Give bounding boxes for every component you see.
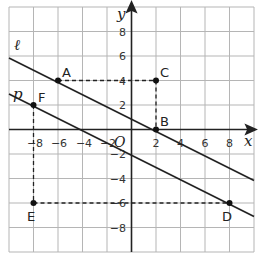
- x-tick: −8: [27, 137, 43, 150]
- x-tick: 2: [153, 137, 160, 150]
- point-D: [227, 200, 233, 206]
- y-tick: −8: [110, 222, 126, 235]
- point-B-label: B: [160, 114, 169, 129]
- x-tick: −6: [51, 137, 67, 150]
- x-tick: 6: [202, 137, 209, 150]
- point-C: [153, 78, 159, 84]
- line-p-label: p: [13, 85, 23, 103]
- axes: [9, 2, 256, 252]
- x-tick: −4: [76, 137, 92, 150]
- point-A-label: A: [62, 65, 71, 80]
- x-tick-labels: −8 −6 −4 −2 2 4 6 8: [27, 137, 233, 150]
- line-l-label: ℓ: [14, 36, 20, 54]
- y-tick: −2: [110, 148, 126, 161]
- x-axis-label: x: [244, 132, 253, 150]
- y-tick: 2: [119, 99, 126, 112]
- coordinate-graph: x y O −8 −6 −4 −2 2 4 6 8 8 6 4 2 −2 −4 …: [0, 0, 258, 266]
- y-tick: 6: [119, 50, 126, 63]
- point-E-label: E: [27, 209, 35, 224]
- point-B: [153, 127, 159, 133]
- y-tick: 4: [119, 75, 126, 88]
- point-F-label: F: [38, 90, 45, 105]
- y-tick: −4: [110, 173, 126, 186]
- point-D-label: D: [222, 209, 232, 224]
- point-E: [31, 200, 37, 206]
- point-F: [31, 102, 37, 108]
- point-C-label: C: [160, 65, 169, 80]
- x-tick: 8: [226, 137, 233, 150]
- point-A: [55, 78, 61, 84]
- y-tick: 8: [119, 26, 126, 39]
- y-axis-label: y: [116, 5, 126, 23]
